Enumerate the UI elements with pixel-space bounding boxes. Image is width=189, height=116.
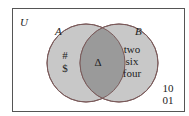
intersection-element: Δ: [94, 56, 101, 68]
set-b-element: two: [124, 43, 141, 55]
set-a-element: $: [62, 62, 68, 74]
outside-element: 10: [163, 82, 175, 94]
outside-element: 01: [163, 94, 174, 106]
universe-label: U: [20, 16, 29, 28]
set-a-label: A: [54, 25, 62, 37]
set-b-element: six: [126, 55, 139, 67]
venn-diagram: U A B # $ Δ two six four 10 01: [0, 0, 189, 116]
set-b-label: B: [135, 25, 142, 37]
set-b-element: four: [123, 67, 142, 79]
set-a-element: #: [62, 49, 68, 61]
